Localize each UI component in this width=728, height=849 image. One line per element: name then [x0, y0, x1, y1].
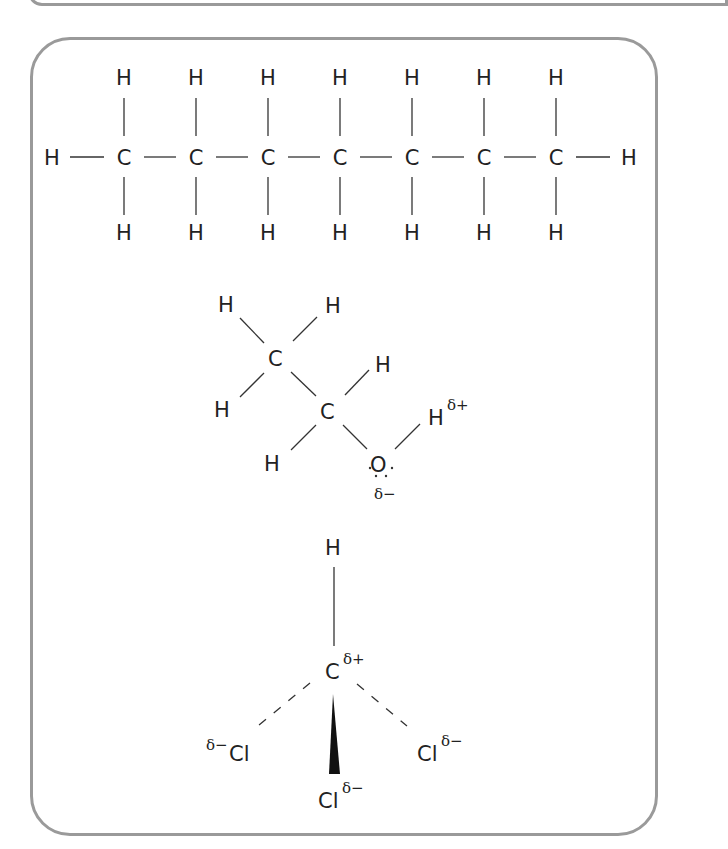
atom-c: C	[549, 146, 564, 170]
atom-h: H	[332, 66, 348, 90]
bond-c2-o	[343, 425, 367, 449]
bond-c1-h1	[240, 318, 264, 343]
atom-h: H	[325, 294, 341, 318]
atom-c: C	[189, 146, 204, 170]
atom-c: C	[405, 146, 420, 170]
chloroform-structure: H C δ+ δ− Cl Cl δ− Cl δ−	[206, 536, 463, 813]
bond-c1-c2	[291, 372, 316, 396]
atom-h-terminal: H	[621, 146, 637, 170]
atom-o: O	[370, 453, 387, 477]
atom-h: H	[214, 398, 230, 422]
bond-o-h	[395, 424, 420, 449]
atom-h: H	[404, 66, 420, 90]
partial-charge-positive: δ+	[343, 650, 365, 668]
atom-cl: Cl	[229, 742, 250, 766]
atom-h: H	[116, 221, 132, 245]
atom-h: H	[476, 66, 492, 90]
atom-h: H	[260, 221, 276, 245]
bond-c2-h4	[345, 370, 369, 395]
partial-charge-positive: δ+	[447, 396, 469, 414]
wedge-bond-c-cl-bottom	[329, 694, 340, 774]
atom-h: H	[264, 452, 280, 476]
ethanol-structure: H H C H H C H O H δ+ δ−	[214, 293, 469, 503]
atom-cl: Cl	[318, 789, 339, 813]
partial-charge-negative: δ−	[374, 485, 396, 503]
bond-c2-h5	[291, 425, 316, 450]
atom-h-hydroxyl: H	[428, 406, 444, 430]
atom-h: H	[188, 221, 204, 245]
heptane-structure: HCHHCHHCHHCHHCHHCHHCHHH	[44, 66, 637, 245]
partial-charge-negative: δ−	[342, 779, 364, 797]
atom-c: C	[477, 146, 492, 170]
partial-charge-negative: δ−	[441, 732, 463, 750]
atom-h: H	[375, 353, 391, 377]
atom-h: H	[218, 293, 234, 317]
atom-h: H	[188, 66, 204, 90]
atom-c: C	[268, 347, 283, 371]
atom-c: C	[261, 146, 276, 170]
atom-h: H	[325, 536, 341, 560]
bond-c1-h3	[240, 373, 264, 397]
atom-h: H	[548, 66, 564, 90]
atom-h: H	[332, 221, 348, 245]
atom-h: H	[548, 221, 564, 245]
atom-h: H	[404, 221, 420, 245]
atom-h-terminal: H	[44, 146, 60, 170]
atom-h: H	[476, 221, 492, 245]
atom-c: C	[117, 146, 132, 170]
atom-c: C	[320, 400, 335, 424]
atom-h: H	[116, 66, 132, 90]
atom-cl: Cl	[417, 742, 438, 766]
partial-charge-negative: δ−	[206, 736, 228, 754]
dashed-bond-c-cl-left	[259, 683, 310, 725]
atom-c: C	[333, 146, 348, 170]
atom-c: C	[325, 660, 340, 684]
dashed-bond-c-cl-right	[357, 684, 407, 726]
bond-c1-h2	[293, 317, 317, 341]
atom-h: H	[260, 66, 276, 90]
